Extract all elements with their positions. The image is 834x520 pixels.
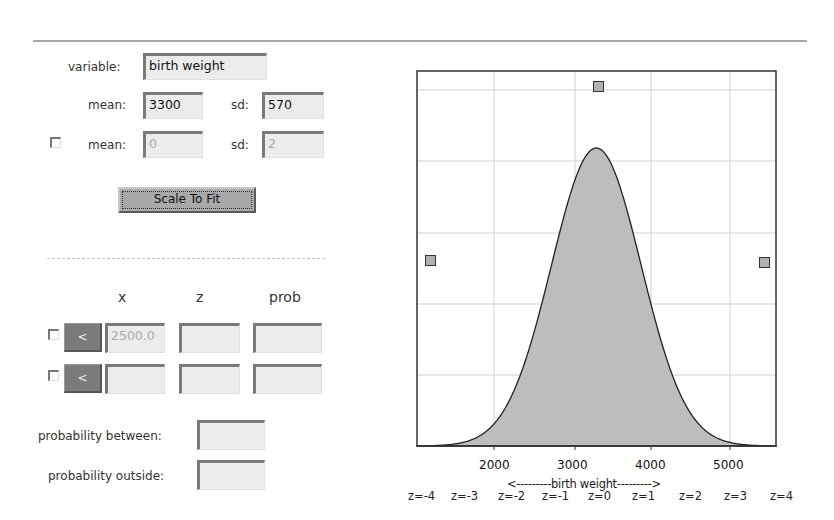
z-label: z=-4 — [408, 489, 435, 503]
x-tick-label: 4000 — [635, 458, 666, 472]
z-label: z=2 — [679, 489, 702, 503]
left-range-handle[interactable] — [425, 255, 436, 266]
z-label: z=-1 — [542, 489, 569, 503]
x-tick-label: 5000 — [713, 458, 744, 472]
z-label: z=3 — [724, 489, 747, 503]
density-curve — [417, 148, 776, 446]
right-range-handle[interactable] — [759, 257, 770, 268]
z-label: z=1 — [632, 489, 655, 503]
z-label: z=-3 — [451, 489, 478, 503]
x-tick-label: 3000 — [557, 458, 588, 472]
z-label: z=0 — [588, 489, 611, 503]
z-label: z=-2 — [498, 489, 525, 503]
normal-distribution-chart — [0, 0, 834, 520]
x-tick-label: 2000 — [479, 458, 510, 472]
z-label: z=4 — [770, 489, 793, 503]
peak-height-handle[interactable] — [593, 81, 604, 92]
